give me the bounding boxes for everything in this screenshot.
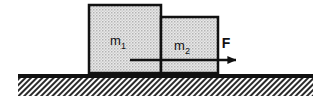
- block-m2-label-subscript: 2: [185, 46, 190, 56]
- block-m2-body: [161, 17, 218, 73]
- ground-hatching: [18, 78, 313, 96]
- block-m1-body: [89, 5, 161, 73]
- force-arrow-label: F: [222, 35, 231, 51]
- physics-diagram-svg: m1 m2 F: [0, 0, 326, 107]
- ground-surface: [18, 74, 313, 96]
- block-m2-label-base: m: [174, 38, 185, 53]
- block-m1-label-subscript: 1: [121, 41, 126, 51]
- block-m2: m2: [161, 17, 218, 73]
- block-m1-label-base: m: [110, 33, 121, 48]
- physics-figure: m1 m2 F: [0, 0, 326, 107]
- block-m1: m1: [89, 5, 161, 73]
- ground-line: [18, 74, 313, 78]
